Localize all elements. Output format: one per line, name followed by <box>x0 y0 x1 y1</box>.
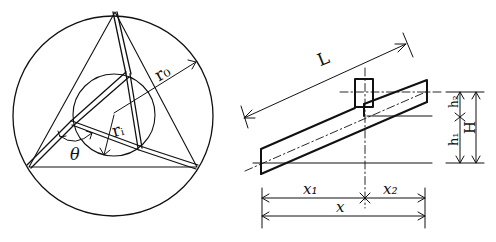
L-label: L <box>314 47 332 70</box>
r0-label: r₀ <box>151 60 174 85</box>
member-body <box>261 80 427 174</box>
h1-label: h₁ <box>446 132 461 146</box>
inclined-member-figure <box>241 33 484 228</box>
h2-label: h₂ <box>447 95 461 108</box>
x2-label: x₂ <box>383 180 397 198</box>
member-centerline <box>245 91 428 171</box>
H-label: H <box>461 121 479 134</box>
ri-label: rᵢ <box>110 119 127 141</box>
joint-block <box>355 79 373 107</box>
tripod-figure <box>13 12 213 216</box>
outer-circle <box>13 16 213 216</box>
theta-label: θ <box>70 145 80 164</box>
x-label: x <box>336 198 345 216</box>
diagram-canvas: r₀ rᵢ θ L h₂ h₁ H x₁ x₂ x <box>0 0 496 242</box>
x1-label: x₁ <box>303 180 317 198</box>
